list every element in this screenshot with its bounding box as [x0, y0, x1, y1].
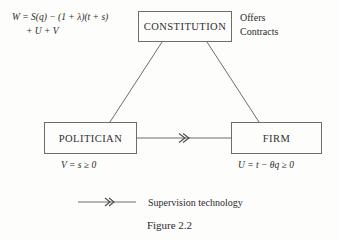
offers-contracts-line1: Offers: [240, 12, 265, 23]
edge-constitution-firm: [207, 42, 259, 122]
welfare-formula-line1: W = S(q) − (1 + λ)(t + s): [12, 12, 108, 22]
figure-caption: Figure 2.2: [0, 219, 339, 231]
legend-label: Supervision technology: [148, 197, 243, 208]
welfare-formula: W = S(q) − (1 + λ)(t + s) + U + V: [12, 11, 108, 38]
offers-contracts-annotation: Offers Contracts: [240, 11, 278, 38]
politician-payoff-equation: V = s ≥ 0: [61, 160, 96, 170]
node-firm: FIRM: [231, 122, 322, 154]
node-constitution: CONSTITUTION: [138, 11, 232, 42]
offers-contracts-line2: Contracts: [240, 26, 278, 37]
firm-payoff-equation: U = t − θq ≥ 0: [238, 160, 294, 170]
node-constitution-label: CONSTITUTION: [144, 21, 226, 32]
node-firm-label: FIRM: [263, 133, 290, 144]
welfare-formula-line2: + U + V: [12, 25, 108, 39]
figure-2-2-diagram: W = S(q) − (1 + λ)(t + s) + U + V Offers…: [0, 0, 339, 240]
node-politician-label: POLITICIAN: [59, 133, 122, 144]
legend: Supervision technology: [78, 193, 298, 211]
legend-arrow-symbol: [78, 195, 136, 209]
node-politician: POLITICIAN: [44, 122, 137, 154]
edge-constitution-politician: [110, 42, 162, 122]
